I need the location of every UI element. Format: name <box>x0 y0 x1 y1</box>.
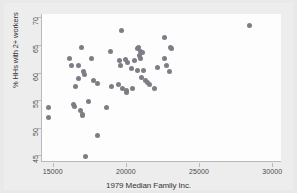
y-tick-label: 60 <box>32 73 39 81</box>
data-point <box>76 63 81 68</box>
data-point <box>73 84 78 89</box>
data-point <box>46 115 51 120</box>
data-point <box>95 133 100 138</box>
data-point <box>80 113 85 118</box>
x-tick-mark <box>272 163 273 167</box>
data-point <box>72 104 77 109</box>
data-point <box>130 86 135 91</box>
data-point <box>76 76 81 81</box>
scatter-series <box>42 14 281 161</box>
data-point <box>89 56 94 61</box>
data-point <box>162 35 167 40</box>
y-tick-label: 55 <box>32 100 39 108</box>
x-tick-mark <box>126 163 127 167</box>
data-point <box>135 68 140 73</box>
data-point <box>140 50 145 55</box>
x-tick-label: 30000 <box>262 168 282 175</box>
data-point <box>83 154 88 159</box>
data-point <box>164 63 169 68</box>
data-point <box>129 66 134 71</box>
data-point <box>95 81 100 86</box>
x-tick-label: 25000 <box>189 168 209 175</box>
data-point <box>119 28 124 33</box>
data-point <box>167 69 172 74</box>
data-point <box>67 56 72 61</box>
data-point <box>69 63 74 68</box>
data-point <box>152 86 157 91</box>
data-point <box>124 90 129 95</box>
x-tick-label: 20000 <box>116 168 136 175</box>
data-point <box>79 45 84 50</box>
data-point <box>162 56 167 61</box>
figure: 455055606570 % HHs with 2+ workers 15000… <box>0 0 297 193</box>
x-axis-label: 1979 Median Family Inc. <box>4 181 293 190</box>
data-point <box>46 105 51 110</box>
y-tick-label: 70 <box>32 17 39 25</box>
data-point <box>109 84 114 89</box>
graph-canvas: 455055606570 % HHs with 2+ workers 15000… <box>4 3 293 190</box>
y-tick-label: 65 <box>32 45 39 53</box>
data-point <box>108 49 113 54</box>
data-point <box>118 63 123 68</box>
data-point <box>147 82 152 87</box>
data-point <box>141 68 146 73</box>
data-point <box>169 46 174 51</box>
x-tick-mark <box>53 163 54 167</box>
data-point <box>104 105 109 110</box>
data-point <box>125 60 130 65</box>
plot-region <box>41 14 281 162</box>
y-tick-label: 50 <box>32 128 39 136</box>
data-point <box>86 99 91 104</box>
x-tick-mark <box>199 163 200 167</box>
data-point <box>82 72 87 77</box>
x-tick-label: 15000 <box>43 168 63 175</box>
data-point <box>132 58 137 63</box>
data-point <box>155 65 160 70</box>
data-point <box>138 56 143 61</box>
data-point <box>247 23 252 28</box>
y-tick-label: 45 <box>32 155 39 163</box>
